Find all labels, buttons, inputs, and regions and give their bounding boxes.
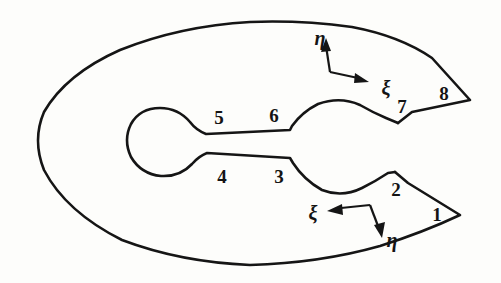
upper-eta-axis-label: η <box>315 28 326 48</box>
lower-eta-arrowhead <box>374 222 385 238</box>
lower-eta-axis-line <box>370 205 378 226</box>
node-label-7: 7 <box>397 97 407 116</box>
domain-boundary-figure: 1 2 3 4 5 6 7 8 η ξ ξ η <box>0 0 501 283</box>
node-label-5: 5 <box>214 108 224 127</box>
node-label-2: 2 <box>391 180 401 199</box>
upper-xi-arrowhead <box>354 73 369 83</box>
node-label-1: 1 <box>432 205 442 224</box>
lower-xi-axis-line <box>341 205 370 208</box>
outer-boundary-path <box>38 22 470 265</box>
node-label-3: 3 <box>274 167 284 186</box>
diagram-canvas <box>0 0 501 283</box>
lower-xi-axis-label: ξ <box>309 203 318 223</box>
lower-xi-arrowhead <box>327 204 343 215</box>
node-label-4: 4 <box>217 167 227 186</box>
upper-xi-axis-line <box>330 72 358 78</box>
node-label-8: 8 <box>439 84 449 103</box>
inner-cutout-path <box>127 100 398 193</box>
upper-xi-axis-label: ξ <box>382 78 391 98</box>
node-label-6: 6 <box>269 106 279 125</box>
lower-eta-axis-label: η <box>387 230 398 250</box>
